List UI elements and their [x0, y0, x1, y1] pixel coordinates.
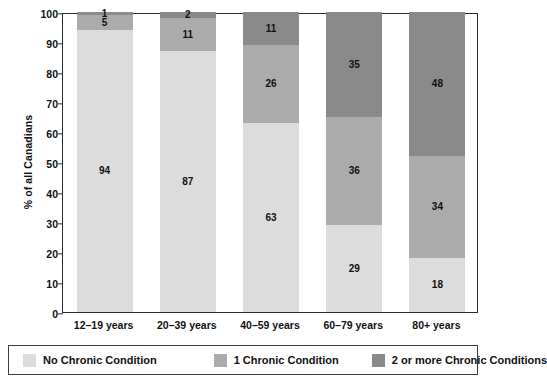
bar-segment-value-label: 26: [265, 79, 276, 89]
legend-label-2-or-more-chronic-conditions: 2 or more Chronic Conditions: [392, 354, 547, 366]
legend-item-no-chronic-condition: No Chronic Condition: [23, 346, 157, 374]
bar-segment-value-label: 18: [432, 280, 443, 290]
bar-segment: 87: [160, 51, 216, 312]
x-axis-tick-label: 20–39 years: [139, 319, 235, 331]
bar-segment-value-label: 11: [183, 30, 194, 40]
x-axis-tick-label: 40–59 years: [222, 319, 318, 331]
y-axis-tick-label: 90: [18, 38, 58, 50]
bar-segment-value-label: 35: [349, 60, 360, 70]
bar-2: 87112: [160, 12, 216, 312]
legend-swatch-icon-2-or-more-chronic-conditions: [372, 354, 385, 367]
y-axis-tick-mark: [58, 163, 63, 164]
bar-segment-value-label: 29: [349, 264, 360, 274]
bar-segment: 36: [326, 117, 382, 225]
y-axis-tick-mark: [58, 253, 63, 254]
y-axis-tick-mark: [58, 193, 63, 194]
bar-segment: 48: [409, 12, 465, 156]
y-axis-tick-label: 0: [18, 308, 58, 320]
x-axis-tick-label: 80+ years: [388, 319, 484, 331]
y-axis-tick-mark: [58, 13, 63, 14]
y-axis-tick-mark: [58, 223, 63, 224]
y-axis-tick-mark: [58, 313, 63, 314]
bar-segment-value-label: 94: [99, 166, 110, 176]
bar-segment-value-label: 87: [182, 177, 193, 187]
bar-segment-value-label: 48: [432, 79, 443, 89]
chart-legend: No Chronic Condition 1 Chronic Condition…: [8, 345, 478, 375]
y-axis-tick-label: 70: [18, 98, 58, 110]
x-axis-tick-label: 60–79 years: [305, 319, 401, 331]
bar-segment: 1: [77, 12, 133, 15]
y-axis-tick-mark: [58, 43, 63, 44]
plot-area: 1009080706050403020100945187112632611293…: [62, 13, 478, 313]
bar-3: 632611: [243, 12, 299, 312]
bar-segment-value-label: 1: [102, 9, 108, 19]
legend-swatch-icon-no-chronic-condition: [23, 354, 36, 367]
y-axis-tick-label: 20: [18, 248, 58, 260]
y-axis-tick-mark: [58, 73, 63, 74]
y-axis-tick-label: 50: [18, 158, 58, 170]
bar-segment: 35: [326, 12, 382, 117]
y-axis-tick-mark: [58, 283, 63, 284]
bar-segment-value-label: 11: [266, 24, 277, 34]
bar-segment-value-label: 5: [102, 18, 108, 28]
y-axis-tick-mark: [58, 103, 63, 104]
bar-segment-value-label: 63: [265, 213, 276, 223]
bar-segment: 18: [409, 258, 465, 312]
legend-swatch-icon-1-chronic-condition: [214, 354, 227, 367]
y-axis-tick-label: 60: [18, 128, 58, 140]
y-axis-tick-label: 30: [18, 218, 58, 230]
bar-4: 293635: [326, 12, 382, 312]
bar-segment-value-label: 36: [349, 166, 360, 176]
x-axis-tick-label: 12–19 years: [56, 319, 152, 331]
bar-5: 183448: [409, 12, 465, 312]
bar-segment: 34: [409, 156, 465, 258]
legend-label-1-chronic-condition: 1 Chronic Condition: [234, 354, 339, 366]
bar-1: 9451: [77, 12, 133, 312]
y-axis-tick-label: 100: [18, 8, 58, 20]
bar-segment: 94: [77, 30, 133, 312]
y-axis-tick-label: 80: [18, 68, 58, 80]
legend-item-1-chronic-condition: 1 Chronic Condition: [214, 346, 339, 374]
bar-segment: 29: [326, 225, 382, 312]
legend-item-2-or-more-chronic-conditions: 2 or more Chronic Conditions: [372, 346, 547, 374]
bar-segment-value-label: 2: [185, 10, 191, 20]
legend-label-no-chronic-condition: No Chronic Condition: [43, 354, 157, 366]
bar-segment: 11: [243, 12, 299, 45]
bar-segment: 11: [160, 18, 216, 51]
y-axis-tick-label: 10: [18, 278, 58, 290]
bar-segment-value-label: 34: [432, 202, 443, 212]
bar-segment: 26: [243, 45, 299, 123]
y-axis-tick-mark: [58, 133, 63, 134]
y-axis-tick-label: 40: [18, 188, 58, 200]
bar-segment: 63: [243, 123, 299, 312]
bar-segment: 2: [160, 12, 216, 18]
